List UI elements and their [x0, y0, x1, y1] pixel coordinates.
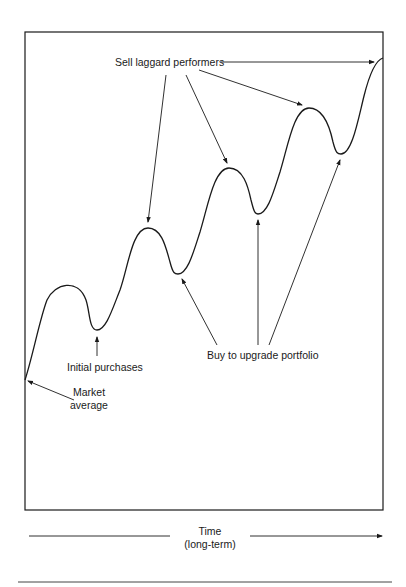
market-average-line1: Market [64, 386, 114, 399]
time-label-line2: (long-term) [170, 538, 250, 551]
sell-laggard-label: Sell laggard performers [115, 56, 224, 69]
time-axis-label: Time (long-term) [170, 525, 250, 551]
initial-purchases-label: Initial purchases [67, 361, 143, 374]
buy-upgrade-label: Buy to upgrade portfolio [207, 349, 319, 362]
time-label-line1: Time [170, 525, 250, 538]
chart-frame [25, 32, 383, 510]
sell-arrow-peak3 [186, 75, 227, 163]
market-average-line2: average [64, 399, 114, 412]
sell-arrow-peak2 [148, 75, 166, 222]
portfolio-curve [25, 58, 383, 380]
buy-arrow-trough4 [269, 160, 340, 345]
market-average-label: Market average [64, 386, 114, 412]
diagram-canvas [0, 0, 406, 587]
buy-arrow-trough2 [182, 279, 217, 345]
sell-arrow-peak4 [199, 70, 302, 105]
